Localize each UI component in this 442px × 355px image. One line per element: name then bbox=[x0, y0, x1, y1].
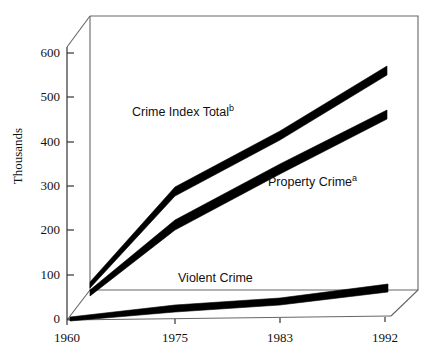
y-tick-label-200: 200 bbox=[26, 222, 60, 238]
series-label-violent-crime-text: Violent Crime bbox=[178, 271, 253, 285]
series-label-property-crime-text: Property Crime bbox=[268, 175, 352, 189]
y-axis bbox=[67, 47, 74, 320]
x-tick-label-1975: 1975 bbox=[152, 330, 198, 346]
series-label-crime-index-total: Crime Index Totalb bbox=[132, 105, 234, 119]
y-tick-label-300: 300 bbox=[26, 178, 60, 194]
y-axis-label: Thousands bbox=[10, 114, 26, 198]
series-label-violent-crime: Violent Crime bbox=[178, 271, 253, 285]
x-tick-label-1992: 1992 bbox=[362, 330, 408, 346]
x-tick-label-1983: 1983 bbox=[257, 330, 303, 346]
chart-canvas bbox=[0, 0, 442, 355]
y-tick-label-500: 500 bbox=[26, 89, 60, 105]
series-label-property-crime: Property Crimea bbox=[268, 175, 357, 189]
y-tick-label-600: 600 bbox=[26, 45, 60, 61]
series-label-crime-index-total-text: Crime Index Total bbox=[132, 105, 229, 119]
series-label-property-crime-footnote: a bbox=[352, 173, 357, 183]
crime-statistics-chart: Thousands 600 500 400 300 200 100 0 1960… bbox=[0, 0, 442, 355]
series-label-crime-index-total-footnote: b bbox=[229, 103, 234, 113]
y-tick-label-100: 100 bbox=[26, 267, 60, 283]
x-tick-label-1960: 1960 bbox=[44, 330, 90, 346]
y-tick-label-0: 0 bbox=[26, 311, 60, 327]
y-tick-label-400: 400 bbox=[26, 134, 60, 150]
